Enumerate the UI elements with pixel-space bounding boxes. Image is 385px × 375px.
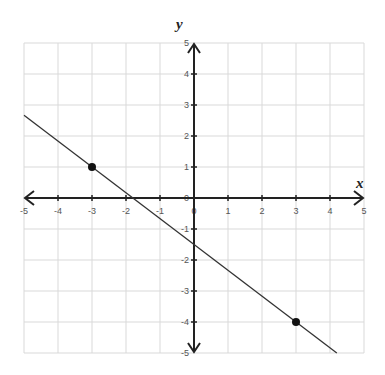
y-tick-label: 5 xyxy=(184,38,189,48)
y-tick-label: 3 xyxy=(184,100,189,110)
y-tick-label: -1 xyxy=(181,224,189,234)
x-tick-label: 3 xyxy=(293,206,298,216)
x-tick-label: -1 xyxy=(156,206,164,216)
x-tick-label: -5 xyxy=(20,206,28,216)
y-tick-label: 1 xyxy=(184,162,189,172)
data-point xyxy=(88,163,96,171)
x-tick-label: -3 xyxy=(88,206,96,216)
y-tick-label: -3 xyxy=(181,286,189,296)
x-tick-label: 1 xyxy=(225,206,230,216)
y-tick-label: 2 xyxy=(184,131,189,141)
data-point xyxy=(292,318,300,326)
x-tick-label: 5 xyxy=(361,206,366,216)
y-tick-label: 4 xyxy=(184,69,189,79)
y-axis-title: y xyxy=(174,16,183,32)
axes xyxy=(25,44,363,352)
coordinate-plane: -5-4-3-2-1012345-5-4-3-2-1012345 x y xyxy=(0,0,385,375)
y-tick-label: -5 xyxy=(181,348,189,358)
y-tick-label: -4 xyxy=(181,317,189,327)
y-tick-label: -2 xyxy=(181,255,189,265)
x-tick-label: -2 xyxy=(122,206,130,216)
x-axis-title: x xyxy=(355,175,364,191)
x-tick-label: 2 xyxy=(259,206,264,216)
x-tick-label: -4 xyxy=(54,206,62,216)
x-tick-label: 4 xyxy=(327,206,332,216)
